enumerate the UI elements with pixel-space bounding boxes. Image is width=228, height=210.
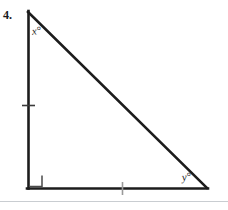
figure-page: 4. x° y° [0, 0, 228, 210]
angle-label-x: x° [31, 24, 42, 37]
scan-artifact-line [0, 201, 228, 202]
problem-number: 4. [3, 8, 12, 22]
angle-label-y: y° [181, 170, 192, 183]
right-angle-marker-icon [30, 176, 42, 187]
hypotenuse-line [28, 12, 207, 188]
